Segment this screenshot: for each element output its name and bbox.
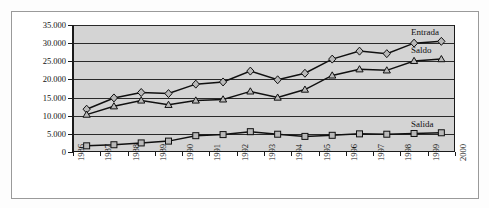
data-point-salida-1986 bbox=[84, 143, 90, 149]
series-label-saldo: Saldo bbox=[411, 46, 432, 55]
data-point-salida-1996 bbox=[357, 131, 363, 137]
data-point-salida-1998 bbox=[411, 130, 417, 136]
y-tick-label-15.000: 15.000 bbox=[0, 94, 66, 103]
y-tick-label-30.000: 30.000 bbox=[0, 39, 66, 48]
x-tick-mark bbox=[455, 152, 456, 156]
data-point-entrada-1988 bbox=[138, 88, 145, 96]
y-tick-label-5.000: 5.000 bbox=[0, 130, 66, 139]
x-tick-mark bbox=[428, 152, 429, 156]
data-point-entrada-1992 bbox=[247, 67, 254, 75]
y-tick-mark bbox=[68, 79, 72, 80]
series-label-entrada: Entrada bbox=[411, 28, 439, 37]
x-tick-mark bbox=[237, 152, 238, 156]
data-point-entrada-1995 bbox=[329, 55, 336, 63]
data-point-entrada-1999 bbox=[438, 37, 445, 45]
data-point-salida-1990 bbox=[193, 133, 199, 139]
y-tick-label-20.000: 20.000 bbox=[0, 75, 66, 84]
series-layer bbox=[73, 25, 455, 152]
data-point-salida-1987 bbox=[111, 142, 117, 148]
x-tick-mark bbox=[128, 152, 129, 156]
data-point-entrada-1987 bbox=[110, 94, 117, 102]
data-point-entrada-1996 bbox=[356, 47, 363, 55]
chart-page: 05.00010.00015.00020.00025.00030.00035.0… bbox=[0, 0, 489, 208]
data-point-salida-1988 bbox=[138, 140, 144, 146]
x-tick-mark bbox=[319, 152, 320, 156]
data-point-saldo-1992 bbox=[247, 88, 254, 94]
data-point-entrada-1990 bbox=[192, 80, 199, 88]
data-point-salida-1995 bbox=[329, 132, 335, 138]
x-tick-mark bbox=[209, 152, 210, 156]
x-tick-mark bbox=[100, 152, 101, 156]
y-tick-mark bbox=[68, 25, 72, 26]
x-tick-mark bbox=[400, 152, 401, 156]
series-line-saldo bbox=[87, 59, 442, 115]
x-tick-mark bbox=[155, 152, 156, 156]
data-point-saldo-1988 bbox=[138, 97, 145, 103]
y-tick-label-0: 0 bbox=[0, 148, 66, 157]
y-tick-mark bbox=[68, 134, 72, 135]
x-tick-mark bbox=[182, 152, 183, 156]
data-point-salida-1992 bbox=[247, 129, 253, 135]
data-point-entrada-1991 bbox=[219, 78, 226, 86]
y-tick-mark bbox=[68, 98, 72, 99]
data-point-salida-1989 bbox=[166, 138, 172, 144]
data-point-salida-1999 bbox=[438, 130, 444, 136]
x-tick-mark bbox=[346, 152, 347, 156]
y-tick-label-10.000: 10.000 bbox=[0, 112, 66, 121]
y-tick-mark bbox=[68, 152, 72, 153]
y-tick-label-35.000: 35.000 bbox=[0, 21, 66, 30]
x-tick-mark bbox=[373, 152, 374, 156]
data-point-entrada-1994 bbox=[301, 69, 308, 77]
x-tick-label-2000: 2000 bbox=[459, 144, 468, 161]
data-point-entrada-1989 bbox=[165, 90, 172, 98]
x-tick-mark bbox=[73, 152, 74, 156]
data-point-entrada-1997 bbox=[383, 50, 390, 58]
y-tick-mark bbox=[68, 43, 72, 44]
data-point-salida-1991 bbox=[220, 132, 226, 138]
series-label-salida: Salida bbox=[411, 120, 434, 129]
data-point-salida-1994 bbox=[302, 133, 308, 139]
data-point-salida-1997 bbox=[384, 131, 390, 137]
y-tick-mark bbox=[68, 116, 72, 117]
x-tick-mark bbox=[291, 152, 292, 156]
y-tick-label-25.000: 25.000 bbox=[0, 57, 66, 66]
y-tick-mark bbox=[68, 61, 72, 62]
data-point-entrada-1993 bbox=[274, 76, 281, 84]
data-point-salida-1993 bbox=[275, 131, 281, 137]
x-tick-mark bbox=[264, 152, 265, 156]
